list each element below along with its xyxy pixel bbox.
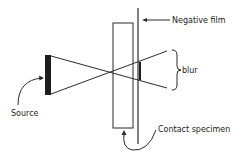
blur-label: blur [182, 66, 198, 75]
blur-brace [172, 50, 181, 90]
ray-lower [51, 51, 167, 94]
source-pointer-curve [18, 78, 42, 105]
specimen-pointer-curve [124, 130, 156, 150]
contact-specimen-label: Contact specimen [158, 125, 230, 134]
source-label: Source [11, 109, 39, 118]
negative-film-label: Negative film [172, 16, 226, 25]
source-block [45, 55, 51, 95]
contact-radiography-diagram: Negative film blur Source Contact specim… [0, 0, 247, 158]
specimen-pointer-arrowhead-icon [122, 130, 127, 135]
film-pointer-arrowhead-icon [142, 18, 147, 22]
source-pointer-arrowhead-icon [39, 76, 44, 81]
blur-mark [139, 62, 141, 80]
